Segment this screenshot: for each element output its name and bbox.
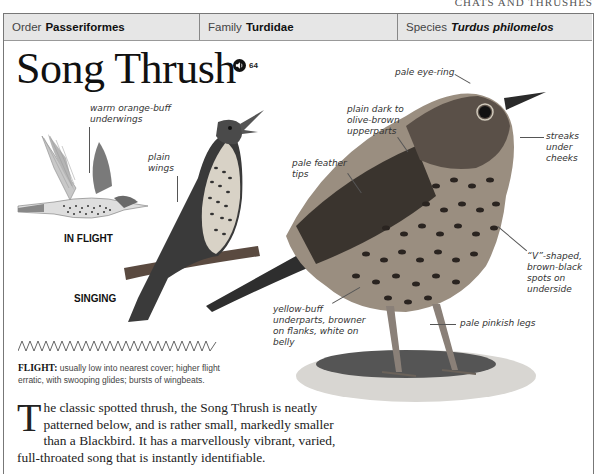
caption-singing: SINGING [74, 293, 116, 304]
audio-reference[interactable]: 64 [233, 59, 258, 72]
leader-line [177, 176, 178, 202]
annotation-feather-tips: pale feather tips [292, 158, 362, 180]
annotation-spots: “V”-shaped, brown-black spots on undersi… [527, 251, 593, 295]
order-label: Order [12, 21, 41, 33]
taxonomy-species: Species Turdus philomelos [398, 14, 592, 40]
annotation-eye-ring: pale eye-ring [395, 67, 475, 78]
annotation-cheeks: streaks under cheeks [546, 131, 592, 164]
section-title: CHATS AND THRUSHES [455, 0, 593, 8]
annotation-upperparts: plain dark to olive-brown upperparts [347, 104, 427, 137]
leader-line [430, 324, 456, 325]
species-value: Turdus philomelos [451, 21, 554, 33]
flight-label: FLIGHT: [18, 363, 57, 373]
species-label: Species [406, 21, 447, 33]
family-value: Turdidae [246, 21, 294, 33]
annotation-underparts: yellow-buff underparts, browner on flank… [273, 304, 373, 348]
leader-line [520, 137, 544, 138]
taxonomy-bar: Order Passeriformes Family Turdidae Spec… [4, 14, 592, 41]
leader-line [89, 127, 90, 173]
species-description: The classic spotted thrush, the Song Thr… [17, 400, 577, 466]
annotation-legs: pale pinkish legs [460, 318, 540, 329]
speaker-icon[interactable] [233, 59, 246, 72]
flight-description: FLIGHT: usually low into nearest cover; … [18, 362, 228, 386]
annotation-plain-wings: plain wings [148, 152, 188, 174]
taxonomy-order: Order Passeriformes [4, 14, 200, 40]
flight-pattern-icon [18, 340, 218, 352]
family-label: Family [208, 21, 242, 33]
annotation-underwings: warm orange-buff underwings [90, 103, 180, 125]
page-title: Song Thrush [16, 44, 236, 94]
drop-cap: T [17, 402, 41, 434]
taxonomy-family: Family Turdidae [200, 14, 398, 40]
order-value: Passeriformes [45, 21, 124, 33]
description-text: he classic spotted thrush, the Song Thru… [17, 400, 347, 466]
caption-in-flight: IN FLIGHT [64, 233, 113, 244]
audio-track-number: 64 [249, 61, 258, 70]
